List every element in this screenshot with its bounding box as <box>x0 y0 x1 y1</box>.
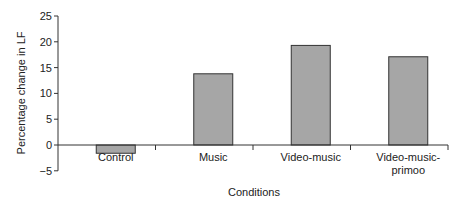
bars <box>96 45 428 153</box>
x-category-label: Video-music <box>281 151 342 163</box>
y-axis: 2520151050−5 <box>39 10 58 177</box>
bar-chart: 2520151050−5 ControlMusicVideo-musicVide… <box>0 0 468 207</box>
bar-video-music <box>291 45 330 145</box>
x-axis-title: Conditions <box>228 186 280 198</box>
bar-music <box>194 74 233 145</box>
x-category-label: Video-music- <box>376 151 440 163</box>
y-tick-label: 10 <box>40 87 52 99</box>
y-tick-label: 20 <box>40 36 52 48</box>
bar-video-music-primoo <box>389 57 428 145</box>
y-tick-label: −5 <box>39 165 52 177</box>
y-tick-label: 0 <box>46 139 52 151</box>
x-category-label: Music <box>199 151 228 163</box>
x-category-label: Control <box>98 151 133 163</box>
y-tick-label: 5 <box>46 113 52 125</box>
x-category-label: primoo <box>391 164 425 176</box>
y-tick-label: 25 <box>40 10 52 22</box>
y-tick-label: 15 <box>40 62 52 74</box>
y-axis-title: Percentage change in LF <box>15 31 27 154</box>
